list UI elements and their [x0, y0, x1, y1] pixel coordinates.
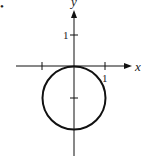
y-axis-label: y — [69, 0, 77, 9]
x-axis-label: x — [134, 59, 141, 74]
y-axis-arrow-icon — [71, 10, 77, 18]
bullet-marker: • — [0, 0, 4, 12]
x-axis-arrow-icon — [124, 63, 132, 69]
graph: • y x 1 1 — [0, 0, 153, 156]
x-tick-label: 1 — [102, 72, 108, 84]
y-tick-label: 1 — [63, 29, 69, 41]
